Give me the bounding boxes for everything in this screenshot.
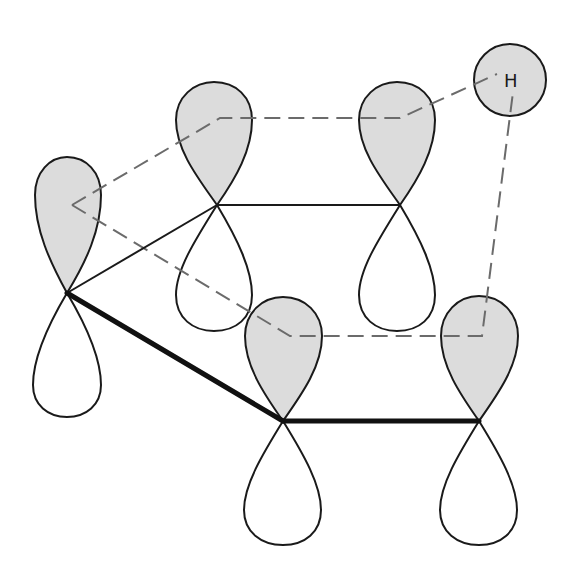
p-orbital-3-lower-lobe <box>359 205 435 331</box>
p-orbital-1-upper-lobe <box>35 157 101 293</box>
p-orbital-1 <box>33 157 101 417</box>
p-orbital-5-lower-lobe <box>440 421 517 545</box>
p-orbital-1-lower-lobe <box>33 293 101 417</box>
p-orbital-5-upper-lobe <box>441 296 518 421</box>
p-orbital-3-upper-lobe <box>359 82 435 205</box>
p-orbital-4-upper-lobe <box>245 297 322 421</box>
orbital-diagram: H <box>0 0 576 575</box>
p-orbital-2-upper-lobe <box>176 82 252 205</box>
p-orbital-4-lower-lobe <box>244 421 321 545</box>
p-orbital-3 <box>359 82 435 331</box>
hydrogen-label: H <box>504 70 518 91</box>
p-orbital-2-lower-lobe <box>176 205 252 331</box>
